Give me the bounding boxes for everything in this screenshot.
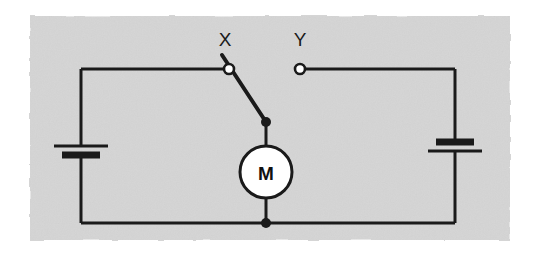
terminal-y-contact[interactable]: [295, 64, 305, 74]
diagram-panel: [30, 16, 510, 240]
battery-left: [54, 145, 108, 159]
circuit-diagram-canvas: M X Y: [0, 0, 534, 253]
terminal-x-label: X: [219, 29, 232, 50]
junction-motor-bottom: [261, 218, 271, 228]
battery-right: [428, 139, 482, 153]
circuit-diagram-figure: M X Y: [0, 0, 534, 253]
motor-label: M: [258, 163, 274, 184]
junction-switch-motor: [261, 117, 271, 127]
terminal-x-contact[interactable]: [224, 64, 234, 74]
battery-left-short-plate: [62, 152, 100, 159]
battery-left-long-plate: [54, 145, 108, 148]
terminal-y-label: Y: [294, 29, 307, 50]
panel-texture-overlay: [30, 16, 510, 240]
battery-right-short-plate: [436, 139, 474, 146]
motor-symbol: M: [240, 146, 292, 198]
battery-right-long-plate: [428, 150, 482, 153]
